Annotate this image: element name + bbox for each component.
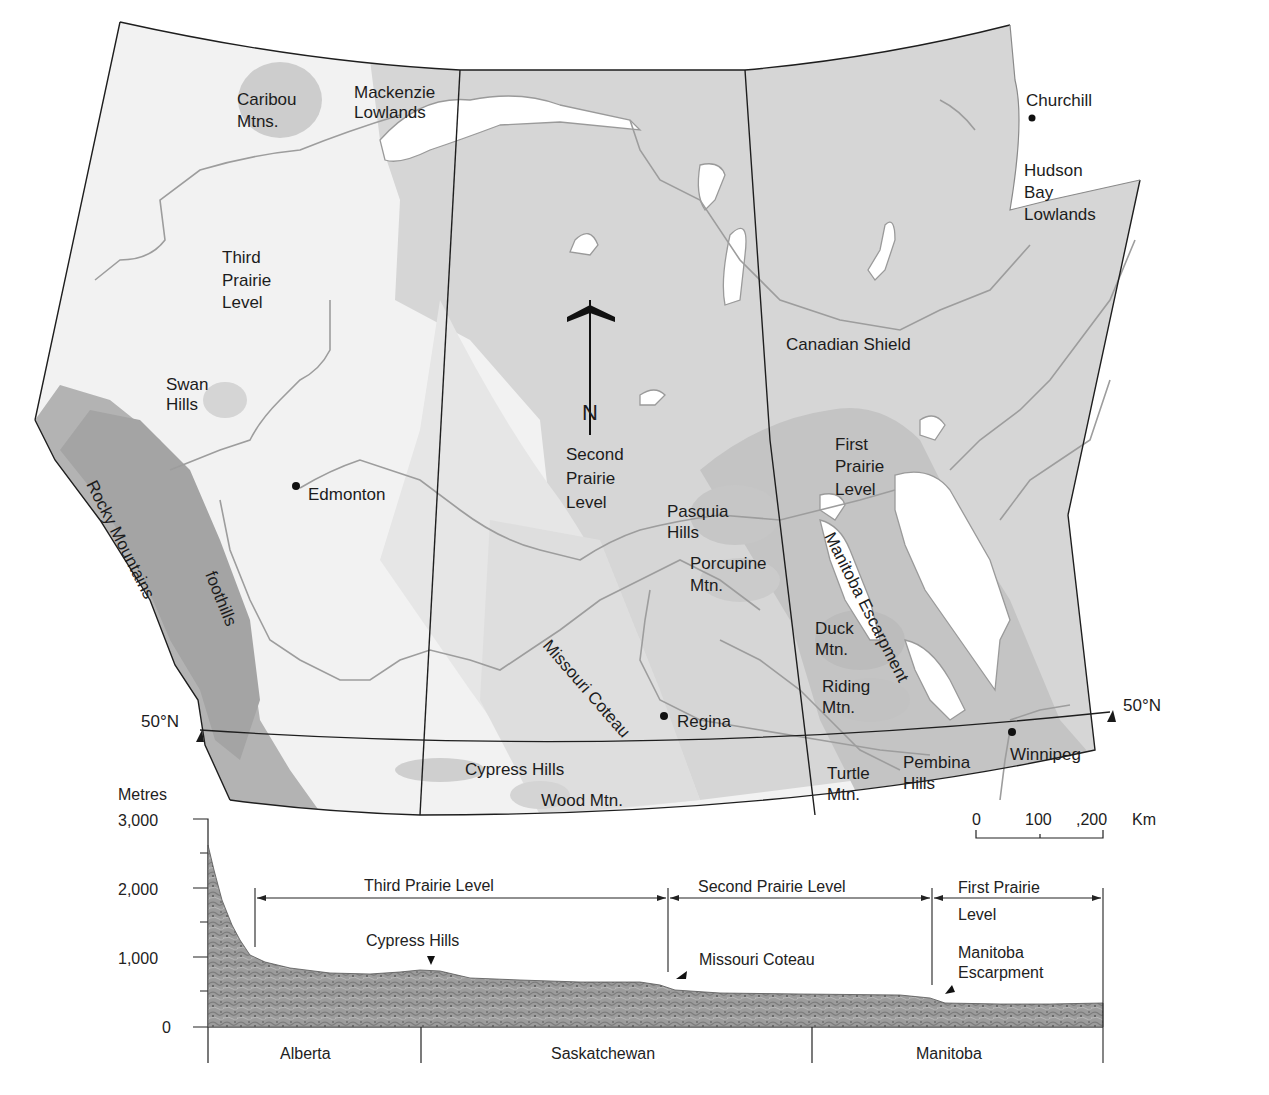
label-third-2: Prairie xyxy=(222,271,271,290)
map-svg: N Caribou Mtns. Mackenzie Lowlands Churc… xyxy=(0,0,1269,1095)
churchill-dot-icon xyxy=(1029,115,1036,122)
profile-level-third: Third Prairie Level xyxy=(364,877,494,894)
profile-y-tick-0: 0 xyxy=(162,1019,171,1036)
label-churchill: Churchill xyxy=(1026,91,1092,110)
label-duck-1: Duck xyxy=(815,619,854,638)
label-wood-mtn: Wood Mtn. xyxy=(541,791,623,810)
label-caribou-2: Mtns. xyxy=(237,112,279,131)
profile-feature-cypress: Cypress Hills xyxy=(366,932,459,949)
label-swan-2: Hills xyxy=(166,395,198,414)
label-regina: Regina xyxy=(677,712,731,731)
profile-y-tick-3000: 3,000 xyxy=(118,812,158,829)
label-pembina-2: Hills xyxy=(903,774,935,793)
scale-unit: Km xyxy=(1132,811,1156,828)
label-pembina-1: Pembina xyxy=(903,753,971,772)
profile-level-second: Second Prairie Level xyxy=(698,878,846,895)
label-second-3: Level xyxy=(566,493,607,512)
label-mackenzie-2: Lowlands xyxy=(354,103,426,122)
profile-y-title: Metres xyxy=(118,786,167,803)
escarpment-pointer-icon xyxy=(945,985,955,994)
scale-tick-100: 100 xyxy=(1025,811,1052,828)
label-pasquia-2: Hills xyxy=(667,523,699,542)
label-duck-2: Mtn. xyxy=(815,640,848,659)
label-first-3: Level xyxy=(835,480,876,499)
scale-bar: 0 100 ,200 Km xyxy=(972,811,1156,838)
profile-y-tick-1000: 1,000 xyxy=(118,950,158,967)
label-second-2: Prairie xyxy=(566,469,615,488)
scale-tick-0: 0 xyxy=(972,811,981,828)
profile-y-tick-2000: 2,000 xyxy=(118,881,158,898)
label-first-2: Prairie xyxy=(835,457,884,476)
label-mackenzie-1: Mackenzie xyxy=(354,83,435,102)
label-porcupine-1: Porcupine xyxy=(690,554,767,573)
map-figure: N Caribou Mtns. Mackenzie Lowlands Churc… xyxy=(0,0,1269,1095)
profile-feature-escarpment-1: Manitoba xyxy=(958,944,1024,961)
label-hudson-1: Hudson xyxy=(1024,161,1083,180)
regina-dot-icon xyxy=(660,712,668,720)
label-caribou-1: Caribou xyxy=(237,90,297,109)
label-canadian-shield: Canadian Shield xyxy=(786,335,911,354)
north-letter: N xyxy=(582,400,598,425)
label-turtle-2: Mtn. xyxy=(827,785,860,804)
label-cypress-hills: Cypress Hills xyxy=(465,760,564,779)
profile-feature-escarpment-2: Escarpment xyxy=(958,964,1044,981)
label-turtle-1: Turtle xyxy=(827,764,870,783)
profile-feature-missouri: Missouri Coteau xyxy=(699,951,815,968)
label-third-1: Third xyxy=(222,248,261,267)
label-third-3: Level xyxy=(222,293,263,312)
label-first-1: First xyxy=(835,435,868,454)
profile-province-saskatchewan: Saskatchewan xyxy=(551,1045,655,1062)
label-riding-1: Riding xyxy=(822,677,870,696)
winnipeg-dot-icon xyxy=(1008,728,1016,736)
profile-level-first-1: First Prairie xyxy=(958,879,1040,896)
label-pasquia-1: Pasquia xyxy=(667,502,729,521)
scale-tick-200: ,200 xyxy=(1076,811,1107,828)
profile-province-manitoba: Manitoba xyxy=(916,1045,982,1062)
profile-province-alberta: Alberta xyxy=(280,1045,331,1062)
label-riding-2: Mtn. xyxy=(822,698,855,717)
label-edmonton: Edmonton xyxy=(308,485,386,504)
label-50n-left: 50°N xyxy=(141,712,179,731)
label-porcupine-2: Mtn. xyxy=(690,576,723,595)
edmonton-dot-icon xyxy=(292,482,300,490)
cypress-pointer-icon xyxy=(427,956,435,965)
label-hudson-3: Lowlands xyxy=(1024,205,1096,224)
label-50n-right: 50°N xyxy=(1123,696,1161,715)
profile-level-first-2: Level xyxy=(958,906,996,923)
label-second-1: Second xyxy=(566,445,624,464)
label-winnipeg: Winnipeg xyxy=(1010,745,1081,764)
elevation-profile: Metres 3,000 2,000 1,000 0 xyxy=(118,786,1103,1063)
missouri-pointer-icon xyxy=(676,971,687,979)
label-hudson-2: Bay xyxy=(1024,183,1054,202)
profile-terrain xyxy=(208,845,1103,1027)
label-swan-1: Swan xyxy=(166,375,209,394)
